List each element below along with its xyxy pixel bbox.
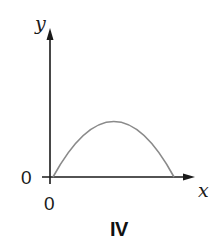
y-axis-label: y [35,14,46,33]
y-axis-arrow-icon [47,28,54,40]
x-axis-label: x [198,181,209,200]
panel-label: IV [110,219,128,239]
graph-canvas [0,0,214,252]
y-origin-label: 0 [21,168,32,187]
graph-figure: y x 0 0 IV [0,0,214,252]
parabola-curve [53,122,174,178]
x-origin-label: 0 [44,194,55,213]
x-axis-arrow-icon [183,174,195,181]
